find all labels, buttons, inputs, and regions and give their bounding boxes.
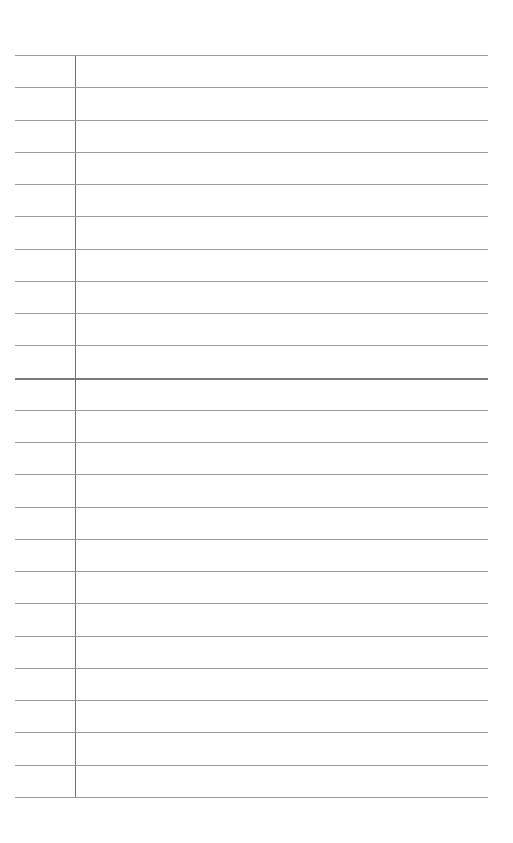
ruled-line bbox=[15, 700, 488, 701]
ruled-line bbox=[15, 281, 488, 282]
ruled-line bbox=[15, 474, 488, 475]
ruled-line bbox=[15, 603, 488, 604]
ruled-line bbox=[15, 378, 488, 380]
ruled-line bbox=[15, 184, 488, 185]
lined-paper-page bbox=[0, 0, 513, 843]
ruled-line bbox=[15, 313, 488, 314]
ruled-line bbox=[15, 765, 488, 766]
ruled-line bbox=[15, 571, 488, 572]
ruled-line bbox=[15, 87, 488, 88]
ruled-line bbox=[15, 636, 488, 637]
ruled-line bbox=[15, 249, 488, 250]
ruled-line bbox=[15, 120, 488, 121]
ruled-line bbox=[15, 797, 488, 798]
ruled-line bbox=[15, 732, 488, 733]
ruled-line bbox=[15, 55, 488, 56]
ruled-line bbox=[15, 216, 488, 217]
ruled-line bbox=[15, 345, 488, 346]
margin-line bbox=[75, 55, 76, 797]
ruled-line bbox=[15, 152, 488, 153]
ruled-line bbox=[15, 442, 488, 443]
ruled-line bbox=[15, 668, 488, 669]
ruled-line bbox=[15, 507, 488, 508]
ruled-line bbox=[15, 539, 488, 540]
ruled-line bbox=[15, 410, 488, 411]
